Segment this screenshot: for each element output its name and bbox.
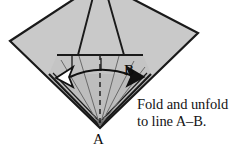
instruction-caption-line-2: to line A–B. (137, 113, 239, 130)
origami-diagram (0, 0, 239, 153)
figure-canvas: A B Fold and unfold to line A–B. (0, 0, 239, 153)
instruction-caption: Fold and unfold to line A–B. (137, 96, 239, 130)
instruction-caption-line-1: Fold and unfold (137, 96, 239, 113)
vertex-label-a: A (93, 132, 104, 147)
vertex-label-b: B (124, 63, 134, 78)
